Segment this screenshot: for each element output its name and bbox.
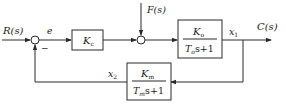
error-label: e [47, 26, 52, 36]
block-diagram: R(s) − e Kc F(s) Ko Tos+1 x1 C(s) Km Tms… [0, 0, 286, 112]
x1-label: x1 [229, 26, 238, 38]
disturbance-label: F(s) [146, 4, 166, 15]
summing-junction-1 [31, 36, 39, 44]
output-label: C(s) [257, 21, 278, 32]
minus-sign: − [41, 43, 49, 53]
summing-junction-2 [137, 36, 145, 44]
plant-denominator: Tos+1 [185, 43, 214, 55]
x2-label: x2 [108, 68, 117, 80]
input-label: R(s) [2, 25, 24, 36]
feedback-denominator: Tms+1 [133, 85, 164, 97]
